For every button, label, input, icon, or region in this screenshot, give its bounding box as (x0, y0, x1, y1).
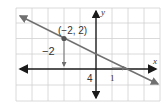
horizontal-change-label: 4 (87, 73, 93, 84)
x-axis-label: x (152, 56, 157, 66)
point-label: (−2, 2) (58, 25, 87, 36)
rise-label: −2 (42, 45, 55, 57)
coordinate-graph: (−2, 2) −2 4 1 y x (0, 0, 166, 109)
grid (16, 8, 160, 101)
point-marker (61, 36, 66, 41)
run-label: 1 (110, 73, 115, 83)
y-axis-label: y (100, 7, 105, 17)
